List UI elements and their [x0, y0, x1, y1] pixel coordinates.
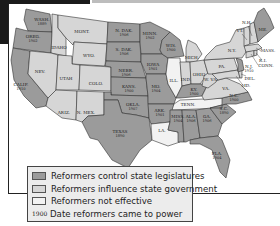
label-idaho: IDAHO — [51, 45, 67, 50]
label-nev: NEV. — [35, 69, 46, 74]
swatch-white — [32, 197, 46, 205]
label-ariz: ARIZ. — [57, 110, 71, 115]
label-utah: UTAH — [59, 76, 72, 81]
label-wyo: WYO. — [83, 53, 95, 58]
year-okla: 1907 — [128, 107, 138, 111]
label-tenn: TENN. — [181, 102, 196, 107]
swatch-dark — [32, 172, 46, 180]
legend-date-sample: 1900 — [32, 210, 46, 217]
year-oreg: 1902 — [28, 39, 37, 43]
swatch-light — [32, 185, 46, 193]
year-minn: 1902 — [145, 36, 154, 40]
legend-item-not-effective: Reformers not effective — [32, 195, 188, 208]
state-ri[interactable] — [254, 50, 257, 56]
label-mich: MICH. — [185, 55, 200, 60]
year-mo: 1904 — [151, 89, 161, 93]
label-wva: W. VA. — [204, 77, 218, 82]
year-wis: 1900 — [166, 48, 176, 52]
year-fla: 1904 — [212, 156, 222, 160]
label-ind: IND. — [181, 77, 191, 82]
label-vt: VT. — [236, 28, 244, 33]
label-mont: MONT. — [74, 29, 89, 34]
year-ndak: 1906 — [119, 33, 129, 37]
state-me[interactable] — [254, 8, 274, 42]
legend-label: Date reformers came to power — [50, 209, 182, 219]
legend-item-date: 1900 Date reformers came to power — [32, 208, 188, 221]
year-sdak: 1906 — [119, 52, 129, 56]
label-mass: MASS. — [261, 48, 276, 53]
label-colo: COLO. — [89, 81, 103, 86]
year-ark: 1901 — [155, 113, 164, 117]
label-ill: ILL. — [170, 78, 179, 83]
label-md: MD. — [241, 83, 250, 88]
year-sc: 1890 — [219, 111, 229, 115]
label-va: VA. — [221, 86, 229, 91]
label-nmex: N. MEX. — [77, 110, 95, 115]
label-del: DEL. — [245, 76, 256, 81]
label-la: LA. — [158, 128, 165, 133]
year-miss: 1904 — [173, 119, 183, 123]
year-iowa: 1901 — [148, 67, 157, 71]
label-me: ME. — [259, 27, 268, 32]
label-pa: PA. — [218, 64, 225, 69]
label-ri: R.I. — [259, 58, 267, 63]
state-colo[interactable] — [79, 65, 111, 91]
year-nc: 1900 — [229, 98, 239, 102]
year-ga: 1906 — [202, 119, 212, 123]
label-conn: CONN. — [258, 63, 274, 68]
legend-item-control: Reformers control state legislatures — [32, 170, 188, 183]
legend-item-influence: Reformers influence state government — [32, 183, 188, 196]
year-ky: 1900 — [189, 92, 199, 96]
year-ala: 1906 — [186, 119, 196, 123]
year-nebr: 1906 — [121, 73, 131, 77]
label-nh: N.H. — [242, 20, 252, 25]
year-texas: 1890 — [115, 134, 125, 138]
legend-label: Reformers not effective — [51, 196, 152, 206]
year-calif: 1910 — [16, 87, 26, 91]
label-ny: N.Y. — [228, 48, 237, 53]
state-ind[interactable] — [180, 62, 191, 86]
year-nj: 1910 — [244, 69, 254, 73]
legend-label: Reformers influence state government — [51, 184, 217, 194]
year-wash: 1889 — [37, 22, 47, 26]
map-legend: Reformers control state legislatures Ref… — [27, 166, 193, 222]
legend-label: Reformers control state legislatures — [51, 171, 205, 181]
year-kans: 1900 — [124, 89, 134, 93]
